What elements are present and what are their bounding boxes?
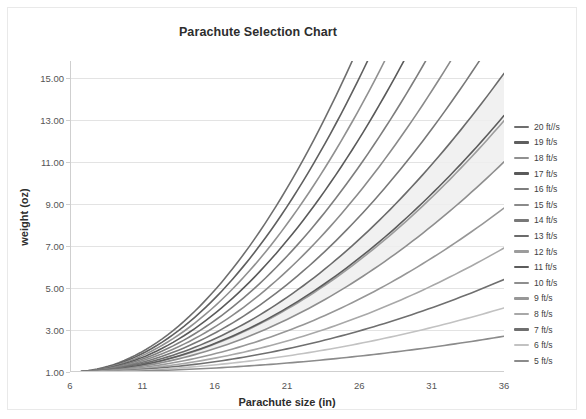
plot-canvas [70, 61, 504, 372]
legend-item[interactable]: 12 ft/s [514, 244, 586, 260]
legend-item[interactable]: 18 ft/s [514, 150, 586, 166]
legend-item[interactable]: 17 ft/s [514, 166, 586, 182]
legend-swatch [514, 344, 529, 346]
legend-swatch [514, 250, 529, 252]
legend-label: 13 ft/s [534, 231, 557, 241]
y-axis-tick-label: 11.00 [41, 156, 64, 167]
legend-item[interactable]: 11 ft/s [514, 259, 586, 275]
legend-label: 19 ft/s [534, 137, 557, 147]
legend-item[interactable]: 20 ft//s [514, 119, 586, 135]
legend-item[interactable]: 13 ft/s [514, 228, 586, 244]
chart-title: Parachute Selection Chart [8, 25, 508, 39]
series-line [70, 61, 374, 372]
legend-swatch [514, 235, 529, 237]
legend-label: 8 ft/s [534, 309, 553, 319]
legend-swatch [514, 204, 529, 206]
y-tick-mark [66, 162, 70, 163]
y-axis-tick-label: 1.00 [46, 367, 65, 378]
x-axis-tick-label: 36 [499, 380, 510, 391]
y-axis-tick-label: 3.00 [46, 324, 65, 335]
chart-frame: Parachute Selection Chart weight (oz) 1.… [7, 7, 577, 410]
legend-swatch [514, 282, 529, 284]
y-axis-tick-label: 13.00 [40, 114, 64, 125]
legend-label: 5 ft/s [534, 356, 553, 366]
legend-label: 18 ft/s [534, 153, 557, 163]
legend-label: 12 ft/s [534, 247, 557, 257]
y-tick-mark [66, 120, 70, 121]
y-tick-mark [66, 372, 70, 373]
y-tick-mark [66, 246, 70, 247]
x-axis-title: Parachute size (in) [70, 396, 504, 408]
x-axis-line [70, 371, 504, 372]
x-axis-tick-label: 11 [137, 380, 147, 391]
legend-item[interactable]: 16 ft/s [514, 181, 586, 197]
legend-swatch [514, 360, 529, 362]
legend-item[interactable]: 8 ft/s [514, 306, 586, 322]
y-tick-mark [66, 78, 70, 79]
y-axis-tick-label: 9.00 [46, 198, 65, 209]
legend-label: 6 ft/s [534, 340, 553, 350]
legend-swatch [514, 266, 529, 268]
y-tick-mark [66, 204, 70, 205]
x-axis-tick-label: 31 [426, 380, 437, 391]
legend-label: 20 ft//s [534, 122, 560, 132]
legend-item[interactable]: 14 ft/s [514, 213, 586, 229]
y-axis-tick-label: 15.00 [40, 72, 64, 83]
legend-item[interactable]: 7 ft/s [514, 322, 586, 338]
legend-item[interactable]: 15 ft/s [514, 197, 586, 213]
x-axis-tick-label: 26 [354, 380, 365, 391]
series-line [70, 61, 358, 372]
legend-item[interactable]: 9 ft/s [514, 291, 586, 307]
series-layer [70, 61, 504, 372]
legend-swatch [514, 188, 529, 190]
legend-label: 14 ft/s [534, 215, 557, 225]
legend-label: 17 ft/s [534, 169, 557, 179]
legend-swatch [514, 172, 529, 174]
y-axis-tick-label: 5.00 [46, 282, 65, 293]
series-line [70, 208, 504, 372]
legend-swatch [514, 313, 529, 315]
legend-swatch [514, 157, 529, 159]
legend-label: 16 ft/s [534, 184, 557, 194]
legend-label: 15 ft/s [534, 200, 557, 210]
legend-label: 10 ft/s [534, 278, 557, 288]
series-line [70, 116, 504, 372]
y-tick-mark [66, 330, 70, 331]
legend-item[interactable]: 19 ft/s [514, 135, 586, 151]
x-axis-tick-label: 21 [282, 380, 293, 391]
legend-swatch [514, 297, 529, 299]
y-axis-tick-label: 7.00 [46, 240, 65, 251]
plot-area: 1.003.005.007.009.0011.0013.0015.0061116… [70, 61, 504, 372]
chart-legend: 20 ft//s19 ft/s18 ft/s17 ft/s16 ft/s15 f… [514, 119, 586, 369]
x-axis-tick-label: 16 [209, 380, 220, 391]
legend-item[interactable]: 5 ft/s [514, 353, 586, 369]
legend-item[interactable]: 10 ft/s [514, 275, 586, 291]
y-axis-title-text: weight (oz) [18, 188, 30, 245]
legend-label: 11 ft/s [534, 262, 557, 272]
legend-label: 9 ft/s [534, 293, 553, 303]
legend-swatch [514, 219, 529, 221]
y-axis-line [70, 61, 71, 372]
y-axis-title: weight (oz) [16, 61, 32, 372]
legend-swatch [514, 141, 529, 143]
legend-label: 7 ft/s [534, 325, 553, 335]
legend-swatch [514, 126, 529, 128]
legend-item[interactable]: 6 ft/s [514, 337, 586, 353]
x-axis-tick-label: 6 [67, 380, 72, 391]
y-tick-mark [66, 288, 70, 289]
legend-swatch [514, 328, 529, 330]
